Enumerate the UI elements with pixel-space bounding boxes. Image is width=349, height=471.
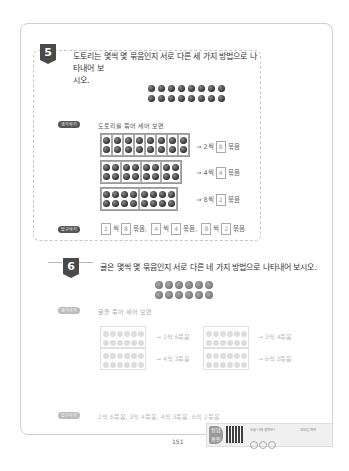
- mandarin-icon: [165, 291, 173, 299]
- divider-right: [79, 262, 93, 263]
- acorn-icon: [121, 191, 128, 198]
- answer-text: 묶음,: [183, 225, 197, 233]
- mandarin-icon: [220, 362, 226, 368]
- answer-check-panel: 정답 확인 오늘 나의 실력은? 부모님 확인: [206, 423, 333, 447]
- acorn-group: [101, 134, 112, 156]
- acorn-group: [123, 134, 134, 156]
- qr-code-icon[interactable]: [226, 426, 243, 443]
- mandarin-icon: [227, 362, 233, 368]
- mandarin-icon: [195, 281, 203, 289]
- mandarin-icon: [138, 340, 144, 346]
- acorn-icon: [103, 146, 110, 153]
- mandarin-icon: [241, 340, 247, 346]
- acorn-icon: [158, 146, 165, 153]
- mandarin-icon: [195, 291, 203, 299]
- acorn-icon: [123, 164, 130, 171]
- grouping-6-a: → 2씩 6묶음: [156, 332, 190, 341]
- face-neutral-icon[interactable]: [259, 441, 267, 449]
- mandarin-icon: [165, 281, 173, 289]
- grouping-6-d: → 6씩 2묶음: [258, 354, 292, 363]
- mandarin-grid-by-4: [100, 348, 146, 370]
- answer-box: 8: [216, 141, 226, 153]
- acorn-icon: [103, 137, 110, 144]
- acorn-icon: [158, 95, 165, 102]
- acorn-icon: [143, 164, 150, 171]
- acorn-icon: [103, 164, 110, 171]
- answer-label-5: 답구하기: [58, 226, 80, 233]
- mandarin-icon: [138, 362, 144, 368]
- acorn-icon: [169, 137, 176, 144]
- acorn-icon: [103, 191, 110, 198]
- acorn-icon: [159, 191, 166, 198]
- acorn-icon: [132, 164, 139, 171]
- acorn-icon: [114, 137, 121, 144]
- acorn-icon: [168, 200, 175, 207]
- acorn-icon: [218, 85, 225, 92]
- grouping-4: → 4씩4묶음: [196, 167, 240, 179]
- acorn-icon: [141, 191, 148, 198]
- acorn-icon: [112, 200, 119, 207]
- mandarin-icon: [103, 340, 109, 346]
- acorn-icon: [147, 137, 154, 144]
- mandarin-icon: [227, 340, 233, 346]
- acorn-group: [121, 161, 141, 183]
- mandarin-icon: [155, 291, 163, 299]
- problem-5-number: 5: [40, 44, 56, 64]
- acorn-icon: [112, 164, 119, 171]
- acorn-group: [101, 161, 121, 183]
- acorn-icon: [143, 173, 150, 180]
- acorn-icon: [169, 146, 176, 153]
- answer-text: 씩: [163, 225, 169, 233]
- approach-text-5: 도토리를 묶어 세어 보면: [98, 121, 164, 130]
- mandarin-icon: [110, 362, 116, 368]
- face-happy-icon[interactable]: [250, 441, 258, 449]
- grouping-6-b: → 3씩 4묶음: [258, 332, 292, 341]
- acorn-icon: [178, 95, 185, 102]
- acorn-icon: [172, 173, 179, 180]
- answer-box: 2: [216, 194, 226, 206]
- acorn-icon: [188, 85, 195, 92]
- acorn-icon: [121, 200, 128, 207]
- acorn-icon: [132, 173, 139, 180]
- acorn-icon: [218, 95, 225, 102]
- mandarin-icon: [206, 340, 212, 346]
- acorn-icon: [150, 191, 157, 198]
- acorn-icon: [123, 173, 130, 180]
- grouping-6-c: → 4씩 3묶음: [156, 354, 190, 363]
- acorn-icon: [147, 146, 154, 153]
- mandarin-icon: [185, 281, 193, 289]
- acorn-group: [112, 134, 123, 156]
- mandarin-icon: [110, 340, 116, 346]
- acorn-grid-by-4: [100, 160, 182, 184]
- mandarin-icon: [241, 362, 247, 368]
- acorn-group: [139, 188, 177, 210]
- mandarin-icon: [185, 291, 193, 299]
- acorn-icon: [172, 164, 179, 171]
- acorn-icon: [159, 200, 166, 207]
- mandarin-icon: [205, 291, 213, 299]
- mandarin-icon: [155, 281, 163, 289]
- mandarin-icon: [131, 340, 137, 346]
- mandarin-icon: [206, 362, 212, 368]
- acorn-group: [167, 134, 178, 156]
- acorn-icon: [178, 85, 185, 92]
- answer-label-6: 답구하기: [58, 412, 80, 419]
- acorn-icon: [130, 200, 137, 207]
- approach-text-6: 귤을 묶어 세어 보면: [98, 307, 152, 316]
- face-sad-icon[interactable]: [268, 441, 276, 449]
- acorn-group: [101, 188, 139, 210]
- mandarin-icon: [103, 362, 109, 368]
- acorn-icon: [103, 200, 110, 207]
- divider-left: [48, 262, 62, 263]
- acorn-grid-by-2: [100, 133, 190, 157]
- acorn-icon: [198, 95, 205, 102]
- acorn-icon: [188, 95, 195, 102]
- mandarin-icon: [175, 291, 183, 299]
- acorn-group: [134, 134, 145, 156]
- acorn-icon: [148, 95, 155, 102]
- answer-box: 4: [216, 167, 226, 179]
- question-line-1: 도토리는 몇씩 몇 묶음인지 서로 다른 세 가지 방법으로 나타내어 보: [73, 51, 263, 75]
- grouping-8: → 8씩2묶음: [196, 194, 240, 206]
- acorn-icon: [198, 85, 205, 92]
- acorn-icon: [114, 146, 121, 153]
